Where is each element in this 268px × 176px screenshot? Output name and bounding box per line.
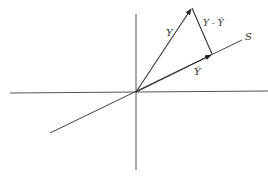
projection-diagram: Y Y - Ŷ Ŷ S — [0, 0, 268, 176]
residual-line — [192, 8, 212, 54]
subspace-label-s: S — [245, 31, 252, 42]
y-hat-label: Ŷ — [194, 66, 202, 77]
residual-label: Y - Ŷ — [203, 17, 225, 28]
horizontal-axis — [10, 91, 268, 93]
y-vector-arrow — [136, 9, 191, 92]
